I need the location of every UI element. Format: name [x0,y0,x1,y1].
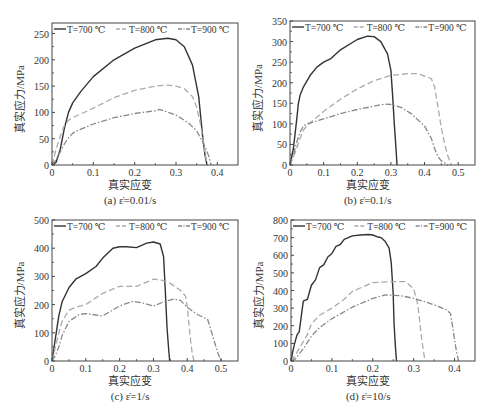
x-tick-label: 0 [50,363,55,374]
y-tick-label: 350 [272,16,287,27]
x-tick-label: 0.4 [181,363,194,374]
x-axis-label: 真实应变 [108,178,152,191]
x-tick-label: 0.3 [147,363,160,374]
series-line-dash [291,282,425,361]
legend-label: T=800 ℃ [129,222,168,232]
y-tick-label: 300 [34,271,49,282]
y-tick-label: 50 [277,139,287,150]
x-axis-label: 真实应变 [108,374,152,387]
legend-label: T=800 ℃ [367,23,406,33]
plot-frame [52,220,238,361]
series-line-solid [290,36,397,165]
y-axis-label: 真实应力/MPa [252,261,265,329]
y-tick-label: 250 [34,29,49,40]
x-axis-label: 真实应变 [346,178,390,191]
legend-label: T=800 ℃ [129,25,168,35]
y-tick-label: 150 [34,81,49,92]
legend-label: T=700 ℃ [305,23,344,33]
x-tick-label: 0.1 [326,363,339,374]
y-tick-label: 250 [272,57,287,68]
series-line-dash [52,279,194,361]
subplot-b: 00.10.20.30.40.5050100150200250300350T=7… [251,16,475,207]
x-tick-label: 0.1 [317,167,330,178]
y-tick-label: 0 [44,356,49,367]
x-tick-label: 0.1 [87,167,100,178]
y-tick-label: 0 [283,356,288,367]
subplot-caption: (d) ε̇=10/s [346,390,391,403]
y-tick-label: 600 [273,250,288,261]
y-tick-label: 300 [272,37,287,48]
x-tick-label: 0 [289,363,294,374]
legend-label: T=800 ℃ [367,222,406,232]
x-tick-label: 0.2 [351,167,364,178]
y-axis-label: 真实应力/MPa [13,65,26,133]
x-tick-label: 0.3 [407,363,420,374]
x-tick-label: 0.4 [448,363,461,374]
y-tick-label: 500 [273,268,288,279]
series-line-dash [290,74,452,165]
legend-label: T=700 ℃ [67,222,106,232]
y-tick-label: 400 [273,286,288,297]
x-tick-label: 0 [50,167,55,178]
series-line-dash [52,85,207,165]
x-tick-label: 0.3 [385,167,398,178]
y-tick-label: 100 [273,338,288,349]
x-tick-label: 0.1 [80,363,93,374]
plot-frame [290,21,475,165]
y-tick-label: 100 [272,119,287,130]
figure-stress-strain-curves: 00.10.20.30.4050100150200250T=700 ℃T=800… [0,0,495,417]
y-tick-label: 800 [273,215,288,226]
x-axis-label: 真实应变 [346,374,390,387]
y-tick-label: 700 [273,233,288,244]
y-tick-label: 100 [34,328,49,339]
legend: T=700 ℃T=800 ℃T=900 ℃ [54,222,230,232]
x-tick-label: 0.5 [452,167,465,178]
y-axis-label: 真实应力/MPa [13,261,26,329]
legend: T=700 ℃T=800 ℃T=900 ℃ [292,23,467,33]
series-line-solid [291,235,397,362]
plot-frame [291,220,475,361]
legend-label: T=900 ℃ [191,25,230,35]
y-tick-label: 50 [39,134,49,145]
legend-label: T=700 ℃ [306,222,345,232]
series-line-dashdot [291,295,459,361]
y-tick-label: 200 [273,321,288,332]
y-tick-label: 0 [44,160,49,171]
legend-label: T=900 ℃ [429,222,468,232]
y-tick-label: 200 [34,300,49,311]
x-tick-label: 0.5 [215,363,228,374]
subplot-a: 00.10.20.30.4050100150200250T=700 ℃T=800… [13,23,238,207]
subplot-d: 00.10.20.30.40100200300400500600700800T=… [252,215,475,403]
x-tick-label: 0.2 [113,363,126,374]
x-tick-label: 0 [288,167,293,178]
series-line-dashdot [290,104,448,165]
y-tick-label: 500 [34,215,49,226]
subplot-caption: (a) ε̇=0.01/s [104,194,156,207]
x-tick-label: 0.4 [418,167,431,178]
y-tick-label: 300 [273,303,288,314]
y-axis-label: 真实应力/MPa [251,64,264,132]
x-tick-label: 0.4 [211,167,224,178]
subplot-c: 00.10.20.30.40.50100200300400500T=700 ℃T… [13,215,238,403]
x-tick-label: 0.2 [367,363,380,374]
series-line-dashdot [52,109,211,165]
y-tick-label: 100 [34,107,49,118]
series-line-solid [52,38,207,165]
y-tick-label: 400 [34,243,49,254]
legend: T=700 ℃T=800 ℃T=900 ℃ [54,25,230,35]
legend-label: T=900 ℃ [428,23,467,33]
y-tick-label: 200 [34,55,49,66]
x-tick-label: 0.2 [128,167,141,178]
series-line-dashdot [52,299,221,361]
series-line-solid [52,242,170,361]
legend: T=700 ℃T=800 ℃T=900 ℃ [293,222,467,232]
legend-label: T=900 ℃ [191,222,230,232]
x-tick-label: 0.3 [170,167,183,178]
y-tick-label: 150 [272,98,287,109]
y-tick-label: 200 [272,78,287,89]
subplot-caption: (b) ε̇=0.1/s [344,194,392,207]
subplot-caption: (c) ε̇=1/s [111,390,150,403]
legend-label: T=700 ℃ [67,25,106,35]
y-tick-label: 0 [282,160,287,171]
